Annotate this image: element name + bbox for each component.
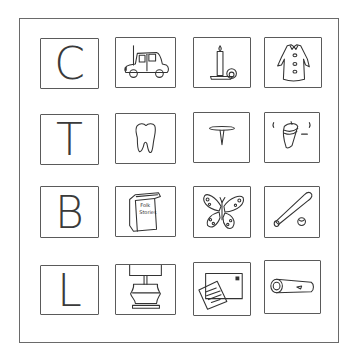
card-butterfly bbox=[193, 186, 251, 238]
card-letter-t: T bbox=[40, 114, 99, 165]
letter-b: B bbox=[41, 187, 98, 237]
book-cover-line2: Stories bbox=[139, 209, 157, 215]
book-icon: Folk Stories bbox=[116, 187, 175, 236]
thumbtack-icon bbox=[194, 113, 249, 162]
lamp-icon bbox=[116, 265, 175, 314]
letter-t: T bbox=[41, 115, 98, 164]
spinning-top-icon bbox=[265, 113, 319, 162]
car-icon bbox=[116, 38, 175, 87]
candle-icon bbox=[194, 38, 250, 87]
letter-l: L bbox=[41, 266, 98, 314]
card-letter-mail bbox=[193, 262, 251, 316]
card-coat bbox=[264, 37, 322, 88]
book-cover-line1: Folk bbox=[140, 202, 150, 208]
card-letter-l: L bbox=[40, 265, 99, 315]
bat-and-ball-icon bbox=[265, 187, 319, 237]
letter-c: C bbox=[41, 39, 98, 88]
butterfly-icon bbox=[194, 187, 250, 237]
card-bat-ball bbox=[264, 186, 320, 238]
card-top bbox=[264, 112, 320, 163]
card-lamp bbox=[115, 264, 176, 315]
card-tack bbox=[193, 112, 250, 163]
log-icon bbox=[265, 261, 320, 313]
card-candle bbox=[193, 37, 251, 88]
card-car bbox=[115, 37, 176, 88]
letter-envelope-icon bbox=[194, 263, 250, 315]
coat-icon bbox=[265, 38, 321, 87]
card-letter-b: B bbox=[40, 186, 99, 238]
card-log bbox=[264, 260, 321, 314]
tooth-icon bbox=[116, 114, 175, 163]
card-tooth bbox=[115, 113, 176, 164]
card-letter-c: C bbox=[40, 38, 99, 89]
card-book: Folk Stories bbox=[115, 186, 176, 237]
